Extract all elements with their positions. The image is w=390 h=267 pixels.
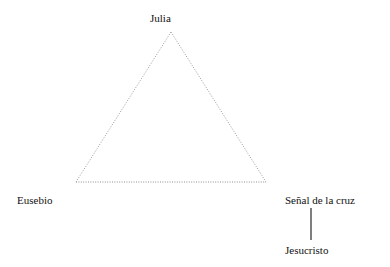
node-label-julia: Julia: [150, 12, 171, 25]
edge-julia-senal: [171, 32, 266, 182]
diagram-canvas: Julia Eusebio Señal de la cruz Jesucrist…: [0, 0, 390, 267]
edge-julia-eusebio: [76, 32, 171, 182]
node-label-eusebio: Eusebio: [17, 194, 52, 207]
node-label-senal-de-la-cruz: Señal de la cruz: [285, 194, 355, 207]
triangle-diagram-graphics: [0, 0, 390, 267]
node-label-jesucristo: Jesucristo: [285, 244, 328, 257]
